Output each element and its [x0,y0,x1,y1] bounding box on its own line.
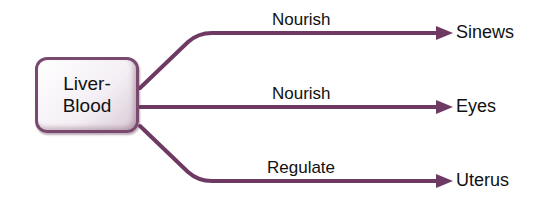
edge-label-sinews: Nourish [272,10,331,30]
arrowhead-eyes [436,100,453,114]
target-sinews: Sinews [456,22,514,43]
arrowhead-sinews [436,26,453,40]
edge-label-eyes: Nourish [272,84,331,104]
node-label-line2: Blood [63,95,112,117]
edge-label-uterus: Regulate [267,158,335,178]
target-uterus: Uterus [456,170,509,191]
arrowhead-uterus [436,174,453,188]
arrow-sinews [140,33,440,88]
node-label-line1: Liver- [63,73,112,95]
target-eyes: Eyes [456,96,496,117]
liver-blood-node: Liver- Blood [35,57,139,133]
